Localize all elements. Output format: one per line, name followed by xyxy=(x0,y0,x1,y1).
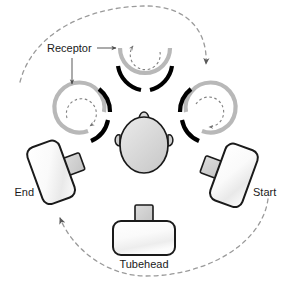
device-start-body xyxy=(208,141,260,209)
device-tubehead-label: Tubehead xyxy=(119,258,168,270)
receptor-right xyxy=(180,83,236,141)
panoramic-rotation-diagram: Start End Tubehead Receptor xyxy=(0,0,288,289)
device-tubehead xyxy=(113,205,175,255)
device-start-label: Start xyxy=(253,186,276,198)
device-tubehead-body xyxy=(113,221,175,255)
device-start xyxy=(193,136,261,209)
diagram-canvas: Start End Tubehead Receptor xyxy=(0,0,288,289)
device-end xyxy=(25,133,93,206)
patient-head xyxy=(115,112,173,173)
device-end-label: End xyxy=(14,186,34,198)
receptor-label: Receptor xyxy=(47,42,92,54)
receptor-left xyxy=(54,83,110,141)
receptor-top xyxy=(118,46,172,90)
